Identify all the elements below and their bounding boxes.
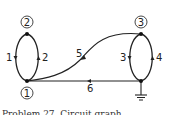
svg-text:1: 1 bbox=[24, 88, 30, 99]
edge-label-5: 5 bbox=[76, 48, 82, 59]
node-ground-dot bbox=[139, 79, 143, 83]
ground-icon bbox=[135, 95, 147, 100]
arrow-down-icon bbox=[14, 56, 18, 60]
svg-text:2: 2 bbox=[24, 17, 30, 28]
node-1-dot bbox=[25, 79, 29, 83]
figure-caption: Problem 27. Circuit graph bbox=[2, 109, 122, 115]
circuit-graph: 2 1 3 1 2 3 4 5 6 Problem 27. Circuit gr… bbox=[0, 0, 171, 115]
arrow-up-icon bbox=[151, 56, 155, 60]
edge-3 bbox=[130, 34, 141, 81]
edge-label-1: 1 bbox=[6, 52, 12, 63]
edge-label-4: 4 bbox=[156, 52, 162, 63]
arrow-up-icon bbox=[37, 56, 41, 60]
node-label-3: 3 bbox=[135, 16, 147, 28]
node-label-2: 2 bbox=[21, 16, 33, 28]
edge-label-6: 6 bbox=[87, 83, 93, 94]
edge-label-3: 3 bbox=[120, 52, 126, 63]
node-label-1: 1 bbox=[21, 87, 33, 99]
edge-4 bbox=[141, 34, 152, 81]
edge-1 bbox=[16, 34, 27, 81]
node-2-dot bbox=[25, 32, 29, 36]
arrow-down-icon bbox=[128, 56, 132, 60]
edge-2 bbox=[27, 34, 38, 81]
node-3-dot bbox=[139, 32, 143, 36]
svg-text:3: 3 bbox=[138, 17, 144, 28]
edge-label-2: 2 bbox=[42, 52, 48, 63]
